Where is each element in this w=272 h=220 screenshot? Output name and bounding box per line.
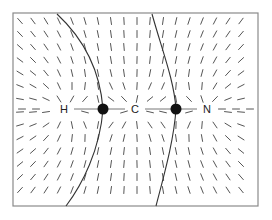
gradient-dash — [201, 70, 203, 77]
gradient-dash — [189, 83, 190, 90]
gradient-dash — [30, 84, 36, 87]
gradient-dash — [124, 44, 125, 51]
gradient-dash — [17, 149, 23, 153]
gradient-dash — [44, 161, 48, 167]
gradient-dash — [226, 31, 230, 37]
gradient-dash — [57, 44, 60, 50]
gradient-dash — [97, 148, 98, 155]
gradient-dash — [84, 187, 86, 194]
gradient-dash — [175, 148, 176, 155]
gradient-dash — [162, 161, 163, 168]
gradient-dash — [238, 124, 245, 126]
gradient-dash — [71, 187, 74, 194]
gradient-dash — [110, 135, 112, 142]
gradient-dash — [201, 135, 202, 142]
gradient-dash — [44, 187, 48, 193]
gradient-dash — [239, 187, 243, 192]
gradient-dash — [225, 112, 232, 113]
gradient-dash — [226, 18, 230, 24]
gradient-dash — [84, 18, 86, 25]
gradient-dash — [17, 85, 23, 88]
gradient-dash — [188, 31, 190, 38]
gradient-dash — [97, 122, 98, 129]
gradient-dash — [111, 161, 112, 168]
gradient-dash — [225, 123, 231, 127]
gradient-dash — [175, 70, 176, 77]
gradient-dash — [201, 18, 204, 24]
gradient-dash — [238, 71, 244, 75]
gradient-dash — [213, 135, 216, 141]
gradient-dash — [18, 32, 23, 37]
gradient-dash — [175, 161, 177, 168]
gradient-dash — [239, 162, 244, 167]
gradient-dash — [84, 148, 85, 155]
gradient-dash — [57, 174, 60, 180]
gradient-dash — [84, 122, 87, 128]
gradient-dash — [162, 31, 163, 38]
gradient-dash — [17, 45, 22, 50]
gradient-dash — [97, 57, 98, 64]
gradient-dash — [71, 122, 72, 129]
gradient-dash — [85, 83, 86, 90]
gradient-dash — [226, 161, 230, 167]
gradient-dash — [213, 57, 216, 63]
gradient-dash — [43, 123, 49, 127]
gradient-dash — [175, 31, 177, 38]
gradient-dash — [149, 70, 150, 77]
gradient-dash — [150, 18, 151, 25]
gradient-dash — [162, 187, 163, 194]
gradient-dash — [201, 148, 203, 155]
gradient-dash — [71, 174, 74, 181]
gradient-dash — [239, 174, 244, 179]
gradient-dash — [213, 187, 216, 193]
gradient-dash — [213, 97, 218, 102]
gradient-dash — [31, 31, 35, 36]
gradient-dash — [201, 44, 204, 50]
gradient-dash — [161, 122, 165, 128]
atom-label-c: C — [131, 103, 139, 115]
gradient-dash — [238, 149, 243, 153]
gradient-dash — [44, 18, 48, 24]
gradient-dash — [85, 70, 86, 77]
gradient-dash — [201, 57, 203, 64]
gradient-dash — [226, 174, 230, 180]
bond-critical-point-C-N — [171, 104, 182, 115]
gradient-dash — [213, 122, 217, 128]
gradient-dash — [97, 174, 98, 181]
gradient-dash — [238, 84, 244, 87]
gradient-dash — [111, 31, 112, 38]
gradient-dash — [57, 31, 60, 37]
gradient-dash — [201, 187, 204, 193]
gradient-dash — [238, 112, 245, 113]
gradient-dash — [44, 135, 49, 140]
gradient-dash — [189, 70, 190, 77]
gradient-dash — [17, 162, 22, 166]
gradient-dash — [150, 57, 151, 64]
gradient-dash — [17, 136, 23, 139]
gradient-dash — [58, 135, 61, 141]
gradient-dash — [58, 122, 61, 128]
gradient-dash — [239, 31, 244, 36]
gradient-dash — [31, 44, 36, 49]
gradient-dash — [58, 70, 61, 76]
gradient-dash — [201, 161, 204, 168]
gradient-dash — [30, 98, 37, 100]
gradient-dash — [239, 44, 244, 49]
gradient-dash — [71, 148, 73, 155]
gradient-dash — [162, 83, 165, 89]
gradient-dash — [225, 84, 230, 88]
gradient-dash — [57, 96, 61, 102]
gradient-dash — [226, 187, 230, 193]
gradient-dash — [226, 70, 231, 75]
gradient-dash — [226, 136, 231, 141]
gradient-dash — [30, 71, 35, 75]
gradient-dash — [44, 31, 48, 37]
gradient-dash — [213, 148, 216, 154]
gradient-dash — [124, 148, 125, 155]
gradient-dash — [31, 58, 36, 63]
gradient-dash — [176, 135, 177, 142]
gradient-dash — [123, 135, 125, 142]
gradient-dash — [226, 148, 231, 153]
gradient-dash — [17, 71, 23, 75]
gradient-dash — [97, 44, 98, 51]
